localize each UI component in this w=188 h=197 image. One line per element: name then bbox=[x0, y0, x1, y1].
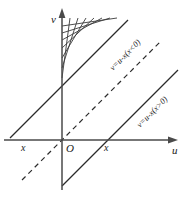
v-axis-arrow-icon bbox=[59, 8, 66, 18]
math-figure: v u O x x v=u-x(x<0) v=u-x(x>0) bbox=[0, 0, 188, 197]
hatched-region bbox=[62, 18, 117, 86]
upper-solid-line bbox=[10, 20, 128, 138]
right-x-tick-label: x bbox=[104, 143, 108, 153]
dashed-line bbox=[22, 42, 160, 180]
left-x-tick-label: x bbox=[21, 143, 25, 153]
v-axis-label: v bbox=[51, 14, 56, 25]
origin-label: O bbox=[66, 143, 74, 154]
u-axis-arrow-icon bbox=[168, 137, 178, 144]
u-axis-label: u bbox=[172, 145, 178, 156]
lower-solid-line bbox=[62, 70, 178, 186]
